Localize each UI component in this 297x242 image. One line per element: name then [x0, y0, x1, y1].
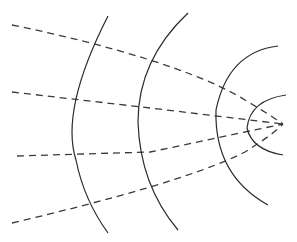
converging-wavefronts-diagram [0, 0, 297, 242]
ray-1 [12, 25, 283, 124]
ray-4 [12, 124, 283, 223]
rays [12, 25, 283, 223]
ray-3 [17, 124, 283, 156]
ray-2 [12, 92, 283, 124]
wavefronts [72, 13, 286, 233]
wavefront-1 [72, 16, 108, 233]
wavefront-2 [138, 13, 188, 230]
